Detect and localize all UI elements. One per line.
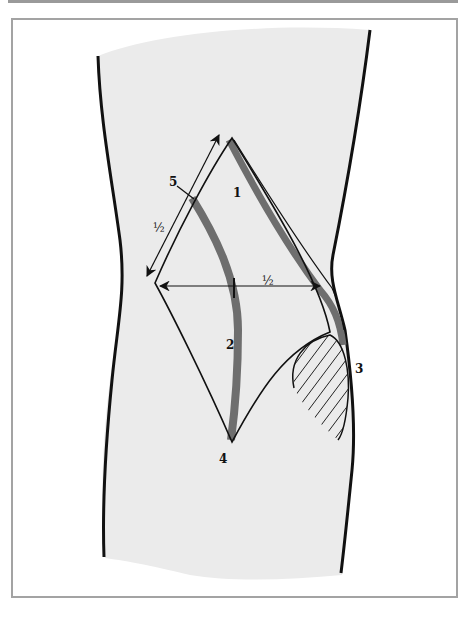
diagram-canvas: 1 2 3 4 5 ½ ½ (0, 0, 471, 619)
label-5: 5 (169, 175, 177, 189)
label-3: 3 (355, 362, 363, 376)
label-1: 1 (233, 186, 241, 200)
half-label-horizontal: ½ (262, 274, 274, 288)
label-4: 4 (219, 452, 227, 466)
label-2: 2 (226, 338, 234, 352)
half-label-diagonal: ½ (153, 221, 165, 235)
